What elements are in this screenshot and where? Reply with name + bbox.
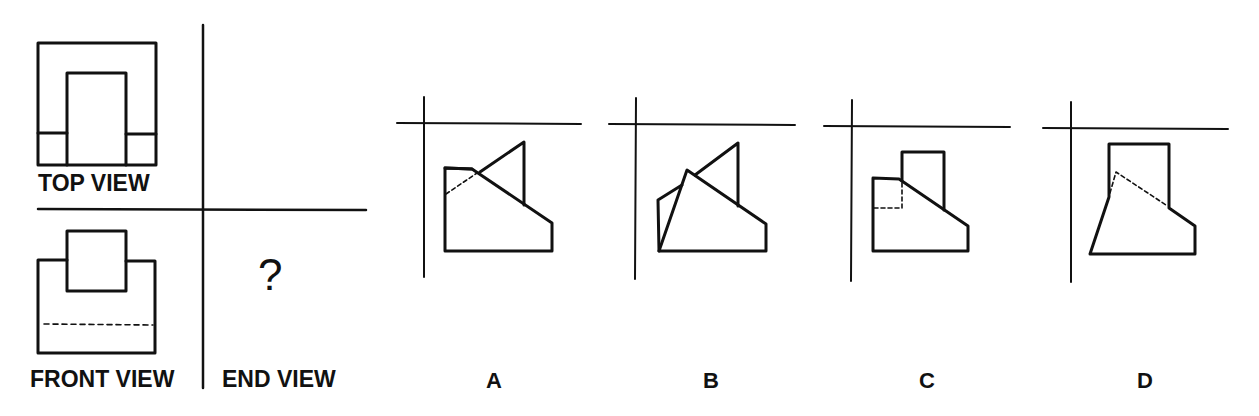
orthographic-projection-diagram [0,0,1259,416]
option-c-drawing [824,100,1010,281]
front-view-drawing [38,231,155,353]
end-view-label: END VIEW [222,366,336,393]
option-d-label[interactable]: D [1137,368,1153,394]
option-b-drawing [609,98,795,279]
option-d-drawing [1043,102,1228,282]
top-view-drawing [38,43,156,165]
unknown-end-view-mark: ? [258,250,282,300]
top-view-label: TOP VIEW [38,170,150,197]
option-b-label[interactable]: B [703,368,719,394]
front-view-label: FRONT VIEW [30,366,174,393]
horizontal-divider [38,209,366,210]
option-a-label[interactable]: A [486,368,502,394]
option-c-label[interactable]: C [919,368,935,394]
option-a-drawing [397,97,581,277]
